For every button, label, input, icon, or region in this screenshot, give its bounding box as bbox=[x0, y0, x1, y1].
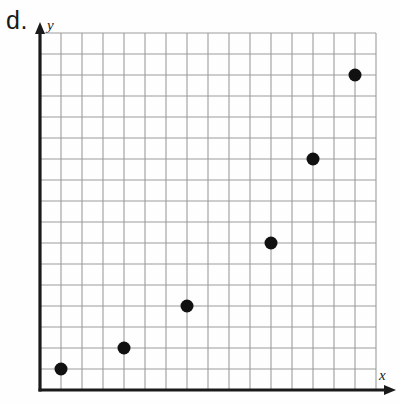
grid-lines bbox=[40, 33, 376, 390]
data-point bbox=[55, 363, 68, 376]
data-point bbox=[118, 342, 131, 355]
axes bbox=[35, 22, 396, 395]
data-point bbox=[181, 300, 194, 313]
plot-canvas bbox=[0, 0, 400, 405]
scatter-plot-figure: d. y x bbox=[0, 0, 400, 405]
data-point bbox=[349, 69, 362, 82]
data-point bbox=[265, 237, 278, 250]
x-axis-arrowhead bbox=[384, 385, 396, 395]
data-point bbox=[307, 153, 320, 166]
y-axis-arrowhead bbox=[35, 22, 45, 34]
